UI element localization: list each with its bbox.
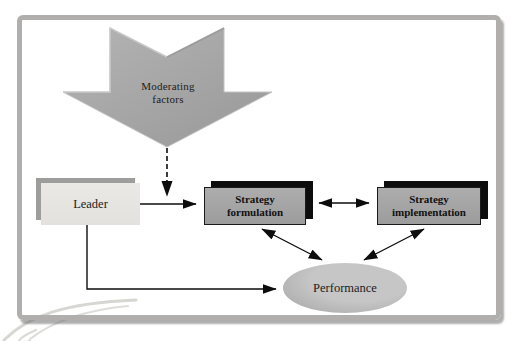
moderating-factors-label: Moderating factors — [126, 77, 210, 109]
strategy-formulation-box: Strategy formulation — [204, 187, 306, 225]
implementation-performance-arrow — [364, 229, 424, 260]
leader-to-performance-arrow — [87, 225, 276, 289]
diagram-shapes-layer — [0, 0, 511, 341]
performance-ellipse: Performance — [283, 263, 407, 313]
diagram-canvas: Moderating factors Leader Strategy formu… — [0, 0, 511, 341]
leader-box: Leader — [41, 183, 140, 225]
strategy-implementation-box: Strategy implementation — [377, 187, 481, 225]
strategy-implementation-label: Strategy implementation — [378, 193, 480, 219]
strategy-formulation-label: Strategy formulation — [205, 193, 305, 219]
formulation-performance-arrow — [262, 229, 322, 260]
leader-label: Leader — [73, 197, 108, 212]
performance-label: Performance — [313, 281, 377, 296]
